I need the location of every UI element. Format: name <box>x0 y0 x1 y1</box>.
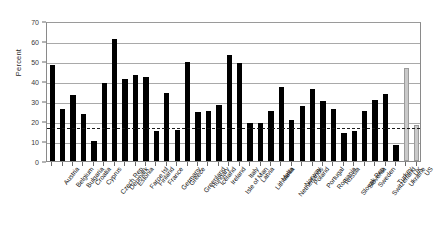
bar <box>331 109 336 161</box>
bar <box>268 111 273 161</box>
bar <box>112 39 117 161</box>
bar <box>185 62 190 161</box>
bar <box>216 105 221 161</box>
bar <box>320 101 325 161</box>
bar <box>279 87 284 161</box>
bar <box>50 65 55 161</box>
bar <box>404 68 409 161</box>
bar <box>133 75 138 161</box>
bar-chart: Percent 010203040506070 AustriaBelgiumBu… <box>0 0 438 241</box>
bar <box>102 83 107 161</box>
y-tick-label: 70 <box>31 19 39 26</box>
bar <box>372 100 377 161</box>
bar <box>414 125 419 161</box>
y-tick-label: 0 <box>35 159 39 166</box>
plot-area <box>46 22 421 162</box>
bar <box>154 131 159 161</box>
y-tick-label: 40 <box>31 79 39 86</box>
bar <box>195 112 200 161</box>
bar <box>175 130 180 161</box>
x-tick-label: Greece <box>189 166 208 187</box>
bar <box>289 120 294 161</box>
bar <box>206 111 211 161</box>
y-axis: Percent 010203040506070 <box>0 0 46 170</box>
bar <box>237 63 242 161</box>
bar <box>362 111 367 161</box>
bar <box>393 145 398 161</box>
y-tick-label: 20 <box>31 119 39 126</box>
bar <box>341 133 346 161</box>
y-tick-label: 50 <box>31 59 39 66</box>
bar-series <box>47 23 420 161</box>
y-tick-label: 10 <box>31 139 39 146</box>
bar <box>143 77 148 161</box>
bar <box>352 131 357 161</box>
bar <box>164 93 169 161</box>
bar <box>300 106 305 161</box>
y-axis-title: Percent <box>14 33 23 93</box>
bar <box>227 55 232 161</box>
x-axis-labels: AustriaBelgiumBulgariaCroatiaCyprusCzech… <box>46 166 421 241</box>
x-tick-label: Russia <box>344 166 362 186</box>
reference-line <box>47 128 420 129</box>
bar <box>310 89 315 161</box>
y-tick-label: 30 <box>31 99 39 106</box>
y-tick-label: 60 <box>31 39 39 46</box>
x-tick-label: US <box>423 166 434 177</box>
bar <box>91 141 96 161</box>
bar <box>81 114 86 161</box>
bar <box>60 109 65 161</box>
bar <box>122 79 127 161</box>
